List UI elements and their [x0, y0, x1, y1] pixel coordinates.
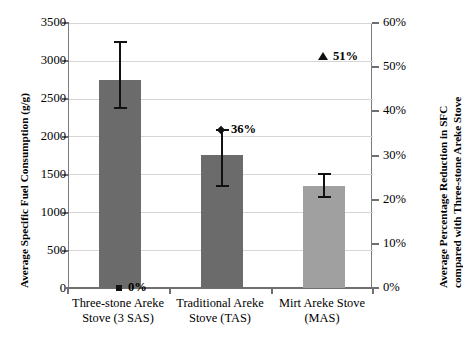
- x-label-line1: Traditional Areke: [168, 296, 272, 311]
- tick-right-20: [372, 199, 379, 201]
- marker-label-36-percent: 36%: [231, 122, 256, 137]
- error-bar-three-stone: [119, 41, 121, 109]
- tick-x-0: [67, 288, 69, 294]
- tick-label-left-7: 0: [60, 281, 66, 296]
- x-label-line2: Stove (3 SAS): [66, 311, 170, 326]
- tick-x-3: [372, 288, 374, 294]
- tick-label-right-1: 50%: [383, 59, 406, 74]
- marker-label-51-percent: 51%: [333, 49, 358, 64]
- error-cap-top-three-stone: [114, 41, 127, 43]
- x-label-traditional-areke-stove: Traditional Areke Stove (TAS): [168, 296, 272, 326]
- error-cap-bottom-three-stone: [114, 107, 127, 109]
- marker-diamond-36-percent[interactable]: [217, 126, 225, 134]
- bar-three-stone-areke-stove[interactable]: [99, 80, 141, 288]
- tick-label-left-0: 3500: [41, 15, 66, 30]
- x-label-three-stone-areke-stove: Three-stone Areke Stove (3 SAS): [66, 296, 170, 326]
- error-cap-top-mirt: [318, 173, 331, 175]
- x-label-line2: (MAS): [270, 311, 374, 326]
- x-label-line1: Three-stone Areke: [66, 296, 170, 311]
- tick-label-left-6: 500: [47, 243, 66, 258]
- error-cap-bottom-traditional: [216, 185, 229, 187]
- marker-triangle-51-percent[interactable]: [318, 52, 328, 60]
- tick-right-10: [372, 243, 379, 245]
- tick-label-left-2: 2500: [41, 91, 66, 106]
- tick-x-2: [271, 288, 273, 294]
- tick-right-40: [372, 110, 379, 112]
- x-label-line1: Mirt Areke Stove: [270, 296, 374, 311]
- tick-label-right-6: 0%: [383, 280, 400, 295]
- tick-label-left-1: 3000: [41, 53, 66, 68]
- bar-mirt-areke-stove[interactable]: [303, 186, 345, 288]
- tick-label-left-3: 2000: [41, 129, 66, 144]
- tick-x-1: [169, 288, 171, 294]
- tick-right-30: [372, 155, 379, 157]
- x-label-line2: Stove (TAS): [168, 311, 272, 326]
- error-bar-traditional: [221, 129, 223, 187]
- tick-right-60: [372, 22, 379, 24]
- marker-label-0-percent: 0%: [128, 280, 147, 295]
- error-cap-bottom-mirt: [318, 196, 331, 198]
- error-bar-mirt: [323, 173, 325, 198]
- tick-label-right-2: 40%: [383, 103, 406, 118]
- tick-label-left-5: 1000: [41, 205, 66, 220]
- tick-label-right-0: 60%: [383, 15, 406, 30]
- tick-right-50: [372, 66, 379, 68]
- marker-square-0-percent[interactable]: [116, 285, 122, 291]
- tick-label-right-4: 20%: [383, 192, 406, 207]
- x-label-mirt-areke-stove: Mirt Areke Stove (MAS): [270, 296, 374, 326]
- tick-label-right-3: 30%: [383, 148, 406, 163]
- tick-label-right-5: 10%: [383, 236, 406, 251]
- tick-label-left-4: 1500: [41, 167, 66, 182]
